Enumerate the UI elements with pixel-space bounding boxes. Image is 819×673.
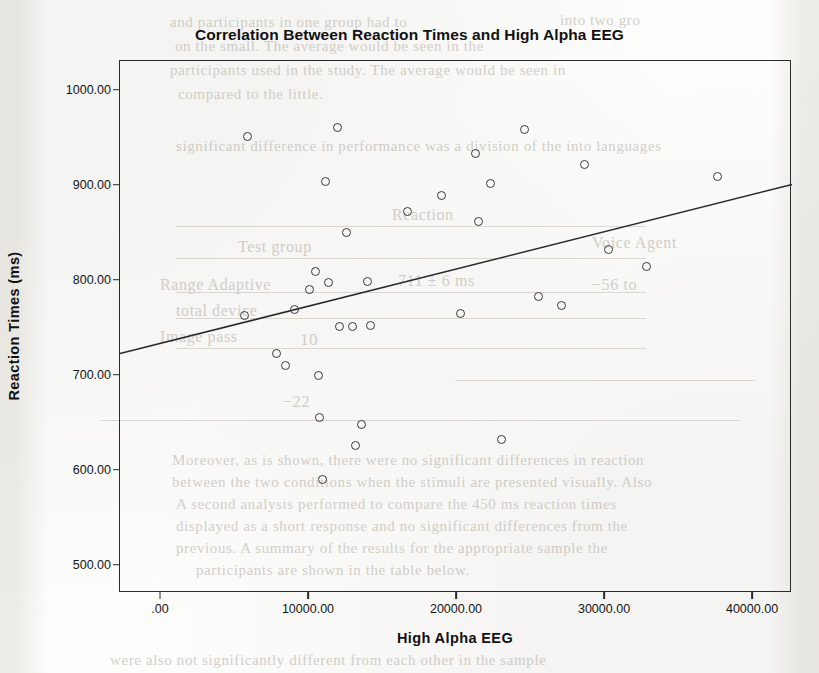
data-point-marker bbox=[486, 179, 495, 188]
y-axis-tick-label: 500.00 bbox=[73, 558, 120, 572]
scatter-chart: Correlation Between Reaction Times and H… bbox=[0, 0, 819, 673]
data-point-marker bbox=[520, 125, 529, 134]
plot-area bbox=[120, 61, 790, 591]
y-axis-title: Reaction Times (ms) bbox=[6, 251, 22, 400]
data-point-marker bbox=[314, 371, 323, 380]
data-point-marker bbox=[363, 277, 372, 286]
data-point-marker bbox=[471, 149, 480, 158]
chart-title: Correlation Between Reaction Times and H… bbox=[0, 26, 819, 44]
x-axis-title: High Alpha EEG bbox=[119, 630, 791, 646]
data-point-marker bbox=[240, 311, 249, 320]
data-point-marker bbox=[604, 245, 613, 254]
x-axis-tick-label: 40000.00 bbox=[726, 591, 778, 616]
data-point-marker bbox=[348, 322, 357, 331]
y-axis-tick-label: 600.00 bbox=[73, 463, 120, 477]
x-axis-tick-label: 10000.00 bbox=[282, 591, 334, 616]
y-axis-tick-label: 1000.00 bbox=[66, 83, 120, 97]
x-axis-tick-label: .00 bbox=[151, 591, 168, 616]
regression-line bbox=[120, 61, 792, 593]
data-point-marker bbox=[335, 322, 344, 331]
data-point-marker bbox=[474, 217, 483, 226]
data-point-marker bbox=[324, 278, 333, 287]
x-axis-tick-label: 20000.00 bbox=[430, 591, 482, 616]
plot-frame: 500.00600.00700.00800.00900.001000.00.00… bbox=[119, 60, 791, 592]
data-point-marker bbox=[366, 321, 375, 330]
data-point-marker bbox=[281, 361, 290, 370]
data-point-marker bbox=[497, 435, 506, 444]
data-point-marker bbox=[305, 285, 314, 294]
y-axis-tick-label: 900.00 bbox=[73, 178, 120, 192]
y-axis-tick-label: 800.00 bbox=[73, 273, 120, 287]
data-point-marker bbox=[243, 132, 252, 141]
data-point-marker bbox=[403, 207, 412, 216]
data-point-marker bbox=[333, 123, 342, 132]
x-axis-tick-label: 30000.00 bbox=[578, 591, 630, 616]
data-point-marker bbox=[557, 301, 566, 310]
y-axis-tick-label: 700.00 bbox=[73, 368, 120, 382]
